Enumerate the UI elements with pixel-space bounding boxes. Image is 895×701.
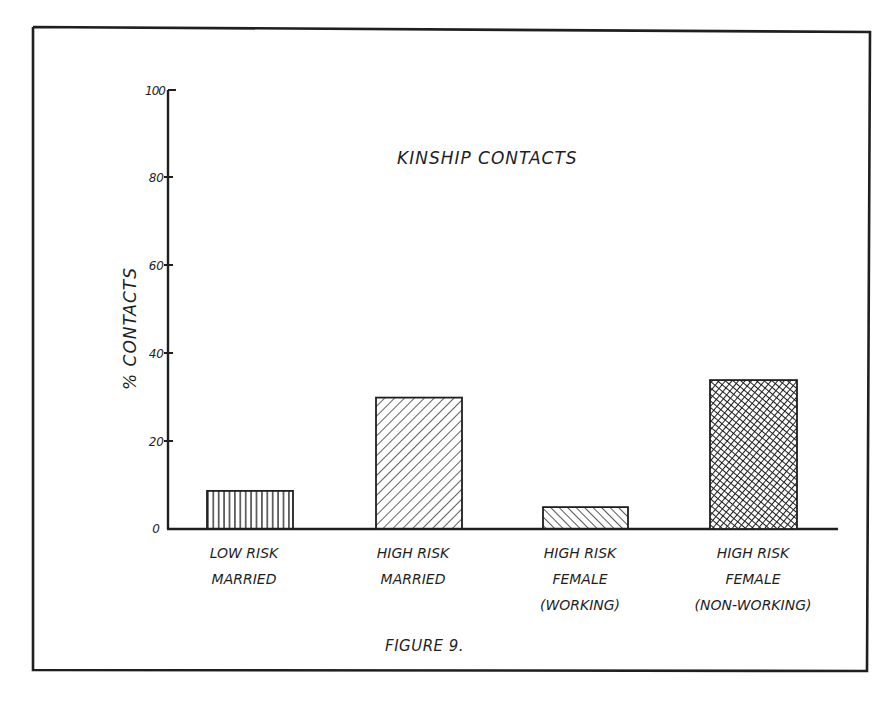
category-label-4-line-1: HIGH RISK <box>717 545 791 561</box>
chart-title: KINSHIP CONTACTS <box>397 148 578 168</box>
category-label-2-line-1: HIGH RISK <box>377 545 451 561</box>
category-label-1-line-2: MARRIED <box>212 571 277 587</box>
category-label-1-line-1: LOW RISK <box>210 545 280 561</box>
y-tick-label-100: 100 <box>145 84 166 98</box>
bar-2 <box>376 398 462 529</box>
figure-9-chart: KINSHIP CONTACTS % CONTACTS 100 80 60 40… <box>0 0 895 701</box>
y-tick-label-40: 40 <box>149 347 165 361</box>
figure-caption: FIGURE 9. <box>385 637 464 655</box>
category-label-4-line-2: FEMALE <box>725 571 780 587</box>
category-label-3-line-2: FEMALE <box>552 571 607 587</box>
bar-4 <box>710 380 797 529</box>
category-labels: LOW RISKMARRIEDHIGH RISKMARRIEDHIGH RISK… <box>210 545 812 613</box>
y-tick-label-20: 20 <box>149 435 165 449</box>
y-tick-label-80: 80 <box>149 171 165 185</box>
bar-1 <box>207 491 293 529</box>
y-tick-label-0: 0 <box>152 522 160 536</box>
category-label-4-line-3: (NON-WORKING) <box>695 597 812 613</box>
category-label-3-line-3: (WORKING) <box>540 597 620 613</box>
bars <box>207 380 797 529</box>
y-tick-label-60: 60 <box>149 259 165 273</box>
category-label-3-line-1: HIGH RISK <box>544 545 618 561</box>
bar-3 <box>543 507 628 529</box>
y-axis-label: % CONTACTS <box>120 267 140 390</box>
category-label-2-line-2: MARRIED <box>381 571 446 587</box>
y-ticks <box>164 90 176 441</box>
